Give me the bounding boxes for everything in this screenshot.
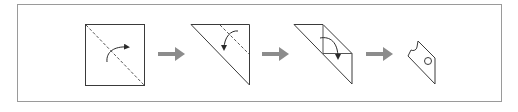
- frame-border: [18, 5, 502, 102]
- diagram-canvas: [0, 0, 518, 112]
- paper-folding-diagram: [0, 0, 518, 112]
